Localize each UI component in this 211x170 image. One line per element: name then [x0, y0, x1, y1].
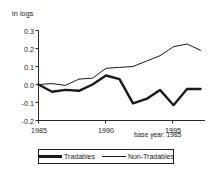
legend-label-non-tradables: Non-Tradables	[128, 153, 174, 160]
y-tick-label-2: 0.1	[12, 63, 34, 72]
y-tick-label-1: 0.2	[12, 45, 34, 54]
x-tick-label-0: 1985	[24, 126, 54, 135]
chart-legend: Tradables Non-Tradables	[38, 149, 174, 164]
y-tick-label-0: 0.3	[12, 27, 34, 36]
chart-axes	[36, 31, 206, 124]
legend-label-tradables: Tradables	[64, 153, 95, 160]
chart-figure: in logs 0.3 0.2 0.1 0.0 -	[0, 0, 211, 170]
series-line-tradables	[39, 76, 201, 106]
y-tick-label-4: -0.1	[12, 99, 34, 108]
legend-item-non-tradables: Non-Tradables	[102, 153, 174, 160]
x-tick-label-1: 1990	[91, 126, 121, 135]
base-year-annotation: base year: 1985	[134, 131, 181, 138]
legend-swatch-thick-icon	[38, 155, 62, 157]
y-tick-label-3: 0.0	[12, 81, 34, 90]
y-tick-label-5: -0.2	[12, 117, 34, 126]
legend-swatch-thin-icon	[102, 156, 126, 157]
legend-item-tradables: Tradables	[38, 153, 95, 160]
chart-series-group	[39, 44, 201, 105]
